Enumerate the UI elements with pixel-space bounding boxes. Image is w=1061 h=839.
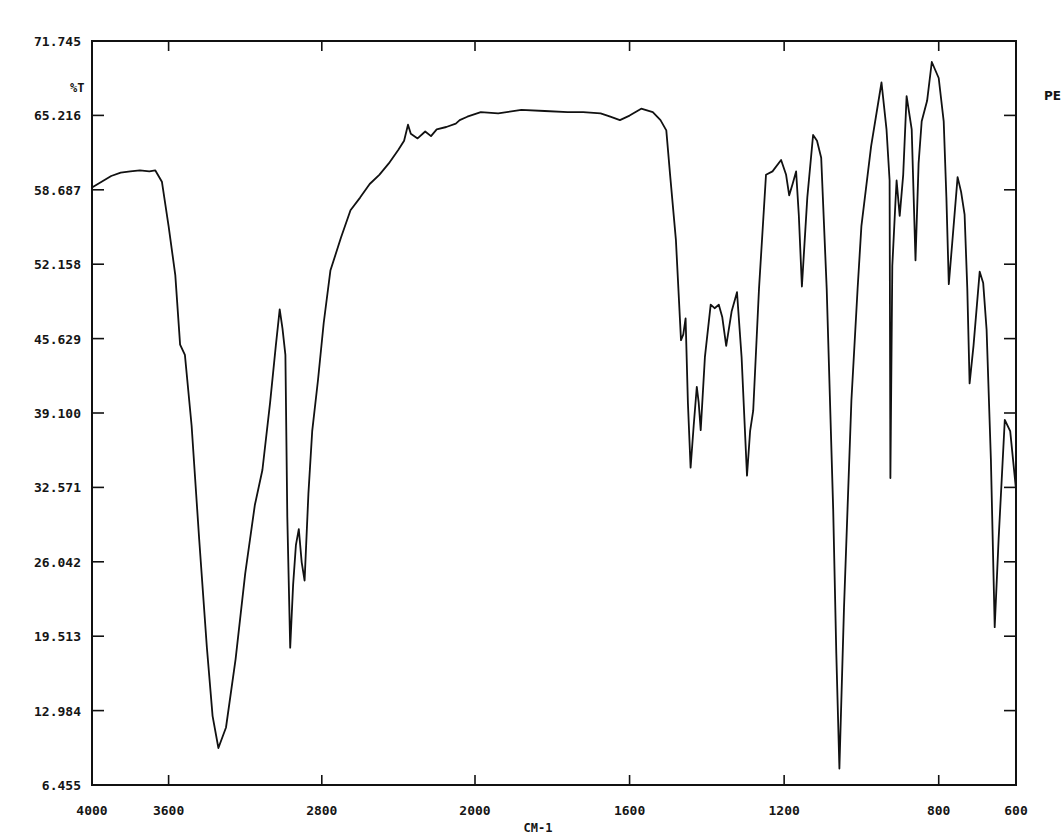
y-tick-label: 32.571: [34, 480, 81, 495]
ir-spectrum-chart: 6.45512.98419.51326.04232.57139.10045.62…: [0, 0, 1061, 839]
y-tick-label: 58.687: [34, 183, 81, 198]
y-tick-label: 6.455: [42, 778, 81, 793]
x-tick-label: 2800: [306, 803, 337, 818]
y-tick-label: 39.100: [34, 406, 81, 421]
y-tick-label: 26.042: [34, 555, 81, 570]
y-tick-label: 12.984: [34, 704, 81, 719]
x-axis-ticks: 400036002800200016001200800600: [76, 41, 1028, 818]
x-tick-label: 1600: [614, 803, 645, 818]
x-axis-title: CM-1: [524, 821, 553, 835]
spectrum-line: [92, 62, 1016, 769]
x-tick-label: 800: [927, 803, 951, 818]
y-tick-label: 19.513: [34, 629, 81, 644]
y-axis-title: %T: [70, 81, 84, 95]
y-tick-label: 71.745: [34, 34, 81, 49]
y-tick-label: 52.158: [34, 257, 81, 272]
x-tick-label: 3600: [153, 803, 184, 818]
x-tick-label: 2000: [459, 803, 490, 818]
plot-frame: [92, 41, 1016, 785]
x-tick-label: 4000: [76, 803, 107, 818]
sample-label: PE: [1044, 89, 1061, 103]
y-tick-label: 45.629: [34, 332, 81, 347]
x-tick-label: 600: [1004, 803, 1028, 818]
x-tick-label: 1200: [768, 803, 799, 818]
y-axis-ticks: 6.45512.98419.51326.04232.57139.10045.62…: [34, 34, 1016, 793]
y-tick-label: 65.216: [34, 108, 81, 123]
